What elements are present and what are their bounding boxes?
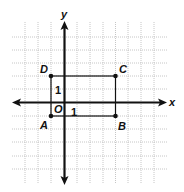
vertex-label-c: C: [119, 63, 128, 75]
labels: y x O 1 1 A B C D: [39, 8, 176, 132]
vertex-label-a: A: [39, 119, 48, 131]
vertex-label-d: D: [40, 63, 48, 75]
y-axis-label: y: [60, 8, 68, 20]
point-b: [113, 114, 118, 119]
x-axis-label: x: [168, 96, 176, 108]
axes: [12, 21, 167, 185]
y-unit-label: 1: [55, 84, 61, 96]
coordinate-plane: y x O 1 1 A B C D: [0, 0, 184, 192]
origin-label: O: [54, 103, 63, 115]
x-unit-label: 1: [71, 106, 77, 118]
point-d: [49, 74, 54, 79]
vertex-label-b: B: [118, 120, 126, 132]
point-a: [49, 114, 54, 119]
point-c: [113, 74, 118, 79]
